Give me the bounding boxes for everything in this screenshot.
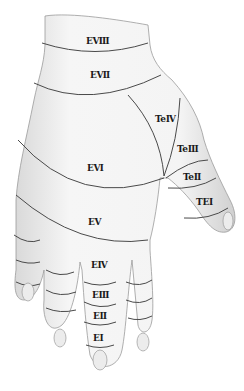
zone-label-e7: EⅦ [90,70,110,80]
zone-label-e2: EⅡ [93,311,107,321]
zone-label-e5: EⅤ [88,217,101,227]
zone-label-e4: EⅣ [91,260,107,270]
zone-label-te2: TeⅡ [183,172,201,182]
zone-label-te1: TEⅠ [196,197,213,207]
zone-label-e1: EⅠ [93,333,103,343]
hand-outline [15,15,235,367]
zone-label-te3: TeⅢ [177,144,198,154]
zone-label-e6: EⅥ [87,163,104,173]
hand-diagram: EⅧ EⅦ TeⅣ TeⅢ TeⅡ TEⅠ EⅥ EⅤ EⅣ EⅢ EⅡ EⅠ [0,0,244,391]
zone-label-e3: EⅢ [92,290,109,300]
zone-label-te4: TeⅣ [155,114,176,124]
zone-label-e8: EⅧ [86,36,109,46]
hand-illustration [0,0,244,391]
